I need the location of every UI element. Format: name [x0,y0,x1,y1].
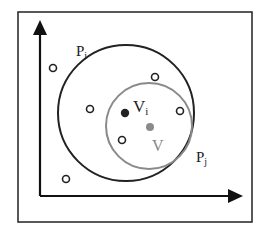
data-point [177,108,184,115]
x-axis-arrow-icon [228,189,243,203]
gray-point-v [146,123,154,131]
label-vi: Vi [133,97,148,117]
data-point [119,137,126,144]
data-point [87,106,94,113]
label-pi: Pi [76,43,87,61]
hollow-points [50,65,184,183]
frame-border [18,12,252,222]
data-point [50,65,57,72]
data-point [63,176,70,183]
cluster-diagram: Pi Vi V Pj [0,0,265,239]
dark-point-vi [121,109,129,117]
label-pj: Pj [196,149,207,167]
data-point [152,74,159,81]
label-v: V [152,137,164,154]
y-axis-arrow-icon [33,20,47,35]
